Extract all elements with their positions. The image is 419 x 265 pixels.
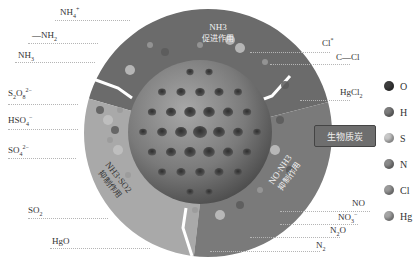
right-leader-line [280, 224, 358, 225]
molecule-atom [270, 145, 280, 155]
molecule-atom [161, 48, 169, 56]
pore [234, 89, 242, 96]
pore [205, 189, 212, 195]
legend-label: O [400, 81, 407, 92]
molecule-atom [107, 137, 113, 143]
pore [176, 88, 185, 96]
atom-sphere-icon [384, 185, 394, 195]
pore [158, 89, 166, 96]
legend-label: Hg [400, 211, 412, 222]
molecule-atom [235, 43, 245, 53]
molecule-atom [125, 172, 131, 178]
left-leader-line [55, 20, 130, 21]
molecule-atom [113, 145, 123, 155]
pore [148, 108, 156, 115]
segment-top-caption: NH3 促进作用 [190, 22, 246, 44]
legend-item-h: H [384, 106, 407, 118]
species-label-ccl: C—Cl [336, 52, 360, 62]
pore [186, 69, 193, 75]
atom-sphere-icon [384, 107, 394, 117]
species-label-hgcl2: HgCl2 [340, 87, 363, 97]
pore [166, 148, 176, 157]
left-leader-line [8, 129, 78, 130]
left-leader-line [28, 43, 98, 44]
legend-item-s: S [384, 132, 406, 144]
species-label-hso4: HSO4− [8, 115, 32, 125]
right-leader-line [300, 100, 350, 101]
pore [195, 168, 205, 176]
legend-item-hg: Hg [384, 210, 412, 222]
left-leader-line [8, 104, 78, 105]
right-leader-line [270, 64, 350, 65]
atom-sphere-icon [384, 159, 394, 169]
pore [214, 168, 223, 176]
pore [233, 128, 243, 136]
atom-sphere-icon [384, 211, 394, 221]
biochar-label: 生物质炭 [314, 125, 376, 147]
legend-item-cl: Cl [384, 184, 409, 196]
pore [253, 129, 261, 136]
pore [139, 129, 147, 136]
pore [223, 108, 233, 117]
left-leader-line [50, 248, 150, 249]
pore [186, 189, 193, 195]
legend-item-n: N [384, 158, 407, 170]
pore [148, 148, 156, 155]
molecule-atom [125, 65, 135, 75]
segment-top-line1: NH3 [190, 22, 246, 33]
legend-label: N [400, 159, 407, 170]
segment-top-line2: 促进作用 [190, 33, 246, 44]
molecule-atom [236, 201, 244, 209]
species-label-cl: Cl* [322, 38, 334, 48]
pore [223, 148, 233, 157]
pore [176, 168, 185, 176]
species-label-nh3: NH3 [18, 50, 34, 60]
pore [158, 169, 166, 176]
molecule-atom [103, 115, 113, 125]
pore [203, 147, 215, 157]
species-label-nh4: NH4+ [60, 7, 79, 17]
molecule-atom [111, 126, 119, 134]
pore [195, 88, 205, 96]
species-label-so2: SO2 [28, 205, 43, 215]
pore [184, 107, 196, 117]
pore [213, 127, 225, 137]
species-label-so4: SO42− [8, 145, 29, 155]
legend-label: Cl [400, 185, 409, 196]
left-leader-line [15, 62, 95, 63]
species-label-no3: NO3− [338, 212, 357, 222]
pore [166, 108, 176, 117]
molecule-atom [262, 59, 268, 65]
legend-label: S [400, 133, 406, 144]
pore [214, 88, 223, 96]
pore [234, 169, 242, 176]
pore [203, 107, 215, 117]
molecule-atom [215, 210, 225, 220]
molecule-atom [117, 107, 123, 113]
pore [243, 148, 251, 155]
pore [205, 69, 212, 75]
pore [175, 127, 187, 137]
pore [243, 108, 251, 115]
right-leader-line [250, 237, 340, 238]
species-label-nh2: —NH2 [32, 30, 57, 40]
molecule-atom [281, 81, 289, 89]
molecule-atom [192, 207, 198, 213]
species-label-n2o: N2O [330, 225, 346, 235]
left-leader-line [8, 158, 76, 159]
pore [193, 126, 207, 138]
species-label-hgo: HgO [52, 236, 70, 246]
pore [157, 128, 167, 136]
molecule-atom [147, 42, 153, 48]
atom-sphere-icon [384, 81, 394, 91]
atom-sphere-icon [384, 133, 394, 143]
right-leader-line [250, 52, 330, 53]
species-label-no: NO [352, 198, 365, 208]
biochar-mechanism-diagram: NH3 促进作用 NH3·SO2 抑制作用 NO·NH3 抑制作用 NH4+—N… [0, 0, 419, 265]
left-leader-line [28, 218, 108, 219]
legend-item-o: O [384, 80, 407, 92]
species-label-n2: N2 [316, 240, 326, 250]
molecule-atom [96, 106, 104, 114]
pore [184, 147, 196, 157]
legend-label: H [400, 107, 407, 118]
